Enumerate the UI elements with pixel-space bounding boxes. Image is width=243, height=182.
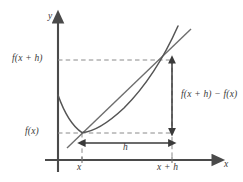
y-axis-label: y bbox=[48, 12, 52, 22]
value-label-upper: f(x + h) bbox=[12, 54, 43, 64]
tick-label-x: x bbox=[77, 163, 81, 173]
run-label: h bbox=[123, 143, 128, 153]
value-label-lower: f(x) bbox=[25, 127, 39, 137]
guide-lines-group bbox=[58, 60, 173, 160]
tick-label-x-plus-h: x + h bbox=[157, 163, 178, 173]
function-curve bbox=[58, 26, 178, 133]
x-axis-label: x bbox=[224, 160, 228, 170]
rise-label: f(x + h) − f(x) bbox=[181, 90, 237, 100]
difference-quotient-figure: y x f(x + h) f(x) x x + h h f(x + h) − f… bbox=[0, 0, 243, 182]
